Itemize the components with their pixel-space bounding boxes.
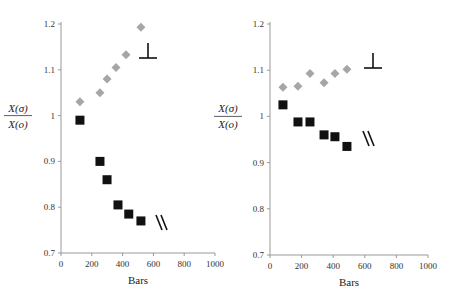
chart-1: 0.70.80.911.11.202004006008001000BarsX(σ… [4,19,225,286]
diamond-marker [111,63,120,72]
square-marker [293,117,302,126]
y-label-numerator: X(σ) [7,102,28,115]
x-tick-label: 200 [85,259,99,269]
y-tick-label: 0.9 [44,156,56,166]
y-tick-label: 1 [260,111,265,121]
x-tick-label: 600 [147,259,161,269]
x-tick-label: 400 [326,261,340,271]
diamond-marker [136,23,145,32]
square-marker [95,157,104,166]
y-tick-label: 0.7 [253,250,265,260]
diamond-marker [121,50,130,59]
square-marker [136,216,145,225]
diamond-marker [95,88,104,97]
y-tick-label: 1 [51,111,56,121]
x-tick-label: 1000 [206,259,225,269]
square-marker [342,142,351,151]
x-tick-label: 600 [358,261,372,271]
y-tick-label: 0.9 [253,158,265,168]
y-label-denominator: X(o) [7,118,28,131]
x-tick-label: 0 [268,261,273,271]
diamond-marker [320,78,329,87]
diamond-marker [103,74,112,83]
square-marker [103,175,112,184]
y-tick-label: 0.8 [253,204,265,214]
square-marker [124,210,133,219]
chart-2: 0.70.80.911.11.202004006008001000BarsX(σ… [214,19,438,288]
square-marker [113,200,122,209]
x-tick-label: 800 [177,259,191,269]
x-axis-label: Bars [128,274,148,286]
y-label-denominator: X(o) [217,118,238,131]
diamond-marker [75,97,84,106]
y-tick-label: 1.2 [44,19,55,29]
diamond-marker [278,83,287,92]
square-marker [305,117,314,126]
y-label-numerator: X(σ) [217,102,238,115]
square-marker [278,100,287,109]
x-tick-label: 200 [295,261,309,271]
x-tick-label: 800 [390,261,404,271]
y-tick-label: 1.2 [253,19,264,29]
chart-canvas: 0.70.80.911.11.202004006008001000BarsX(σ… [0,0,450,295]
x-axis-label: Bars [339,276,359,288]
diamond-marker [342,65,351,74]
square-marker [330,132,339,141]
diamond-marker [330,69,339,78]
square-marker [320,130,329,139]
y-tick-label: 1.1 [44,65,55,75]
y-tick-label: 1.1 [253,65,264,75]
x-tick-label: 0 [59,259,64,269]
square-marker [75,116,84,125]
diamond-marker [305,69,314,78]
x-tick-label: 400 [116,259,130,269]
diamond-marker [293,82,302,91]
x-tick-label: 1000 [419,261,438,271]
y-tick-label: 0.7 [44,248,56,258]
y-tick-label: 0.8 [44,202,56,212]
